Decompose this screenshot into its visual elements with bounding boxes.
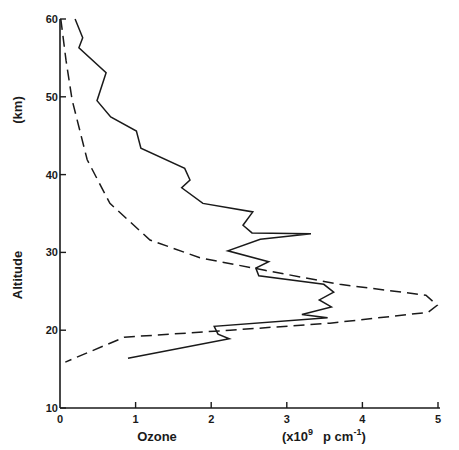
x-axis-units: (x109p cm-1)	[282, 427, 366, 444]
y-tick-label: 50	[46, 91, 58, 103]
y-tick-label: 40	[46, 169, 58, 181]
x-tick-label: 2	[208, 413, 214, 425]
series-group	[61, 19, 437, 362]
x-tick-label: 1	[133, 413, 139, 425]
x-ticks: 012345	[57, 402, 441, 425]
y-ticks: 102030405060	[46, 13, 66, 414]
ozone-altitude-chart: 102030405060 012345 (km) Altitude Ozone …	[0, 0, 459, 450]
x-tick-label: 4	[359, 413, 366, 425]
x-tick-label: 3	[284, 413, 290, 425]
solid-profile-line	[75, 19, 334, 358]
x-tick-label: 5	[435, 413, 441, 425]
x-tick-label: 0	[57, 413, 63, 425]
x-axis-title: Ozone	[137, 429, 177, 444]
y-tick-label: 20	[46, 324, 58, 336]
y-tick-label: 30	[46, 246, 58, 258]
dashed-profile-line	[61, 19, 437, 362]
y-axis-units: (km)	[10, 96, 25, 123]
y-axis-title: Altitude	[10, 251, 25, 299]
y-tick-label: 60	[46, 13, 58, 25]
